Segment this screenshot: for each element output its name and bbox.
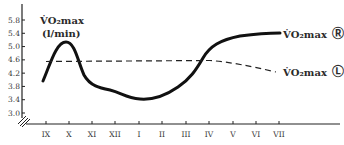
axis-break-icon [18, 116, 30, 127]
x-tick-label: II [159, 130, 165, 139]
x-tick-label: VII [272, 130, 284, 139]
series-right-line [43, 33, 280, 99]
y-tick-label: 3.8 [8, 82, 20, 91]
x-tick-label: XII [109, 130, 120, 139]
x-tick-label: IX [42, 130, 51, 139]
y-axis-unit: (l/min) [42, 28, 81, 39]
y-tick-label: 3.0 [8, 109, 20, 118]
y-tick-label: 4.6 [8, 55, 20, 64]
vo2max-line-chart: 5.85.45.04.64.23.83.43.0 IXXXIXIIIIIIIII… [0, 0, 344, 145]
x-tick-label: III [182, 130, 191, 139]
y-tick-label: 5.4 [8, 29, 20, 38]
legend-left-label: V̇O₂max Ⓛ [282, 64, 344, 79]
x-tick-label: V [229, 130, 236, 139]
y-tick-label: 4.2 [8, 69, 20, 78]
x-tick-label: XI [88, 130, 96, 139]
x-tick-label: VI [251, 130, 260, 139]
y-tick-label: 3.4 [8, 95, 20, 104]
legend-right-label: V̇O₂max Ⓡ [282, 26, 344, 41]
x-tick-label: IV [205, 130, 214, 139]
y-tick-label: 5.8 [8, 16, 20, 25]
y-axis-title: V̇O₂max [39, 15, 85, 26]
x-tick-label: I [138, 130, 141, 139]
x-tick-label: X [66, 130, 72, 139]
y-tick-label: 5.0 [8, 42, 20, 51]
